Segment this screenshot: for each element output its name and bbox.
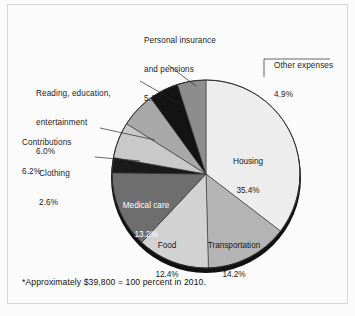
- housing-line1: Housing: [218, 157, 278, 167]
- housing-value: 35.4%: [218, 186, 278, 196]
- pie-chart-figure: Personal insurance and pensions 5.1% Oth…: [0, 0, 355, 316]
- slice-label-housing: Housing 35.4%: [218, 137, 278, 215]
- personal-insurance-line2: and pensions: [144, 65, 216, 75]
- chart-footnote: *Approximately $39,800 = 100 percent in …: [22, 277, 206, 287]
- reading-line1: Reading, education,: [36, 89, 111, 99]
- personal-insurance-line1: Personal insurance: [144, 36, 216, 46]
- transportation-value: 14.2%: [196, 270, 272, 280]
- contributions-line1: Contributions: [22, 138, 72, 148]
- clothing-value: 2.6%: [39, 198, 70, 208]
- slice-label-clothing: Clothing 2.6%: [39, 150, 70, 227]
- personal-insurance-value: 5.1%: [144, 94, 216, 104]
- other-expenses-value: 4.9%: [274, 90, 333, 100]
- transportation-line1: Transportation: [196, 241, 272, 251]
- slice-label-food: Food 12.4%: [137, 221, 197, 299]
- slice-label-transportation: Transportation 14.2%: [196, 221, 272, 299]
- slice-label-personal-insurance: Personal insurance and pensions 5.1%: [144, 17, 216, 123]
- slice-label-other-expenses: Other expenses 4.9%: [274, 42, 333, 119]
- other-expenses-line1: Other expenses: [274, 61, 333, 71]
- clothing-line1: Clothing: [39, 169, 70, 179]
- food-line1: Food: [137, 241, 197, 251]
- medical-care-line1: Medical care: [106, 201, 186, 211]
